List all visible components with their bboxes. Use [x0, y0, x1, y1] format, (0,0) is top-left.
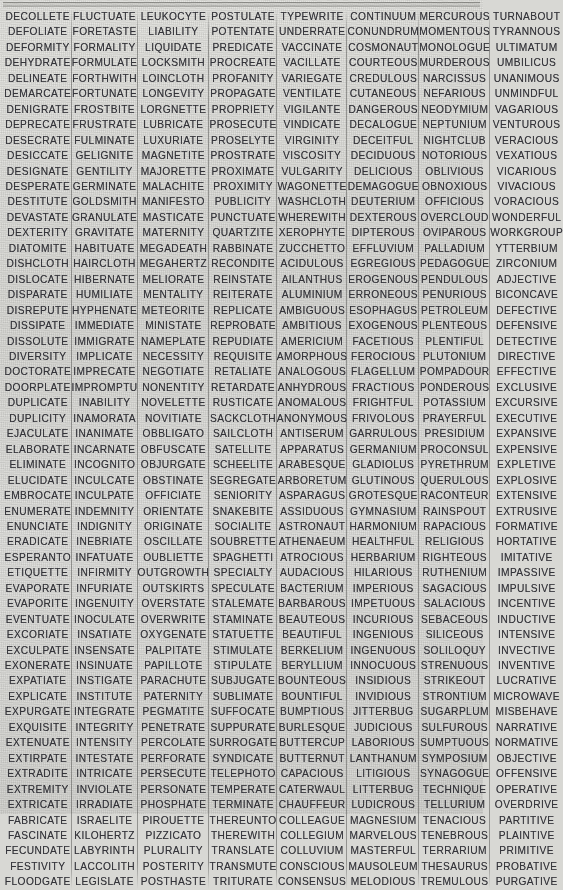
- word-cell: IMPASSIVE: [490, 565, 563, 580]
- word-cell: POSTULATE: [209, 9, 277, 24]
- word-cell: ERRONEOUS: [347, 287, 419, 302]
- word-cell: HILARIOUS: [347, 565, 419, 580]
- word-cell: EGREGIOUS: [347, 256, 419, 271]
- word-cell: TREMULOUS: [419, 874, 490, 889]
- word-cell: DEXTERITY: [4, 225, 72, 240]
- word-cell: CATERWAUL: [277, 782, 348, 797]
- word-cell: DEUTERIUM: [347, 194, 419, 209]
- word-cell: VAGARIOUS: [490, 102, 563, 117]
- word-cell: TENACIOUS: [419, 813, 490, 828]
- word-cell: ATHENAEUM: [277, 534, 348, 549]
- word-cell: PROXIMITY: [209, 179, 277, 194]
- word-cell: SAGACIOUS: [419, 581, 490, 596]
- word-cell: ARABESQUE: [277, 457, 348, 472]
- word-cell: BOUNTEOUS: [277, 673, 348, 688]
- word-cell: DECOLLETE: [4, 9, 72, 24]
- word-cell: TERRARIUM: [419, 843, 490, 858]
- word-cell: FRIGHTFUL: [347, 395, 419, 410]
- word-cell: SATELLITE: [209, 442, 277, 457]
- word-cell: POSTERITY: [138, 859, 210, 874]
- word-cell: MAGNETITE: [138, 148, 210, 163]
- word-cell: TERMINATE: [209, 797, 277, 812]
- word-cell: PLENTEOUS: [419, 318, 490, 333]
- word-cell: INCULPATE: [72, 488, 138, 503]
- word-cell: DEHYDRATE: [4, 55, 72, 70]
- word-cell: CONSCIOUS: [277, 859, 348, 874]
- word-cell: RETARDATE: [209, 380, 277, 395]
- word-cell: INFIRMITY: [72, 565, 138, 580]
- word-cell: NECESSITY: [138, 349, 210, 364]
- word-cell: MERCUROUS: [419, 9, 490, 24]
- word-cell: FORMALITY: [72, 40, 138, 55]
- word-cell: INFATUATE: [72, 550, 138, 565]
- word-cell: SUMPTUOUS: [419, 735, 490, 750]
- word-cell: GLADIOLUS: [347, 457, 419, 472]
- word-cell: APPARATUS: [277, 442, 348, 457]
- word-cell: INVIOLATE: [72, 782, 138, 797]
- word-cell: EXCURSIVE: [490, 395, 563, 410]
- word-cell: FRACTIOUS: [347, 380, 419, 395]
- word-cell: DESPERATE: [4, 179, 72, 194]
- word-cell: BARBAROUS: [277, 596, 348, 611]
- word-cell: ESPERANTO: [4, 550, 72, 565]
- word-cell: CHAUFFEUR: [277, 797, 348, 812]
- word-cell: PERCOLATE: [138, 735, 210, 750]
- word-cell: IMPETUOUS: [347, 596, 419, 611]
- word-cell: DISREPUTE: [4, 303, 72, 318]
- word-cell: MEGAHERTZ: [138, 256, 210, 271]
- word-cell: WHEREWITH: [277, 210, 348, 225]
- word-cell: VENTILATE: [277, 86, 348, 101]
- word-cell: EXPATIATE: [4, 673, 72, 688]
- word-cell: PLURALITY: [138, 843, 210, 858]
- word-cell: PROSECUTE: [209, 117, 277, 132]
- word-cell: PREDICATE: [209, 40, 277, 55]
- word-cell: RETALIATE: [209, 364, 277, 379]
- word-cell: EMBROCATE: [4, 488, 72, 503]
- word-cell: PLUTONIUM: [419, 349, 490, 364]
- word-cell: OBFUSCATE: [138, 442, 210, 457]
- word-column-5: TYPEWRITEUNDERRATEVACCINATEVACILLATEVARI…: [277, 9, 348, 890]
- word-cell: FACETIOUS: [347, 334, 419, 349]
- word-cell: OVERDRIVE: [490, 797, 563, 812]
- word-cell: INSIDIOUS: [347, 673, 419, 688]
- word-cell: VACCINATE: [277, 40, 348, 55]
- word-cell: AILANTHUS: [277, 272, 348, 287]
- word-cell: INCOGNITO: [72, 457, 138, 472]
- word-cell: ASTRONAUT: [277, 519, 348, 534]
- word-cell: NIGHTCLUB: [419, 133, 490, 148]
- word-cell: SOUBRETTE: [209, 534, 277, 549]
- word-cell: THEREWITH: [209, 828, 277, 843]
- word-cell: VORACIOUS: [490, 194, 563, 209]
- word-cell: PROSELYTE: [209, 133, 277, 148]
- word-cell: DENIGRATE: [4, 102, 72, 117]
- word-cell: RELIGIOUS: [419, 534, 490, 549]
- word-cell: IMMEDIATE: [72, 318, 138, 333]
- word-cell: NEGOTIATE: [138, 364, 210, 379]
- word-cell: TYRANNOUS: [490, 24, 563, 39]
- word-cell: MOMENTOUS: [419, 24, 490, 39]
- word-cell: WONDERFUL: [490, 210, 563, 225]
- word-cell: LUCRATIVE: [490, 673, 563, 688]
- word-cell: MARVELOUS: [347, 828, 419, 843]
- word-cell: GLUTINOUS: [347, 473, 419, 488]
- word-cell: RECONDITE: [209, 256, 277, 271]
- word-cell: POTASSIUM: [419, 395, 490, 410]
- word-cell: OBBLIGATO: [138, 426, 210, 441]
- word-cell: VIRGINITY: [277, 133, 348, 148]
- word-cell: QUARTZITE: [209, 225, 277, 240]
- word-cell: TRITURATE: [209, 874, 277, 889]
- word-cell: GOLDSMITH: [72, 194, 138, 209]
- word-column-7: MERCUROUSMOMENTOUSMONOLOGUEMURDEROUSNARC…: [419, 9, 490, 890]
- word-cell: STIMULATE: [209, 643, 277, 658]
- word-cell: PENURIOUS: [419, 287, 490, 302]
- word-cell: INSINUATE: [72, 658, 138, 673]
- word-cell: SUBJUGATE: [209, 673, 277, 688]
- word-cell: BUMPTIOUS: [277, 704, 348, 719]
- word-cell: TYPEWRITE: [277, 9, 348, 24]
- word-cell: NARRATIVE: [490, 720, 563, 735]
- word-cell: TRANSLATE: [209, 843, 277, 858]
- word-cell: INVECTIVE: [490, 643, 563, 658]
- word-cell: PHOSPHATE: [138, 797, 210, 812]
- word-cell: INTENSIVE: [490, 627, 563, 642]
